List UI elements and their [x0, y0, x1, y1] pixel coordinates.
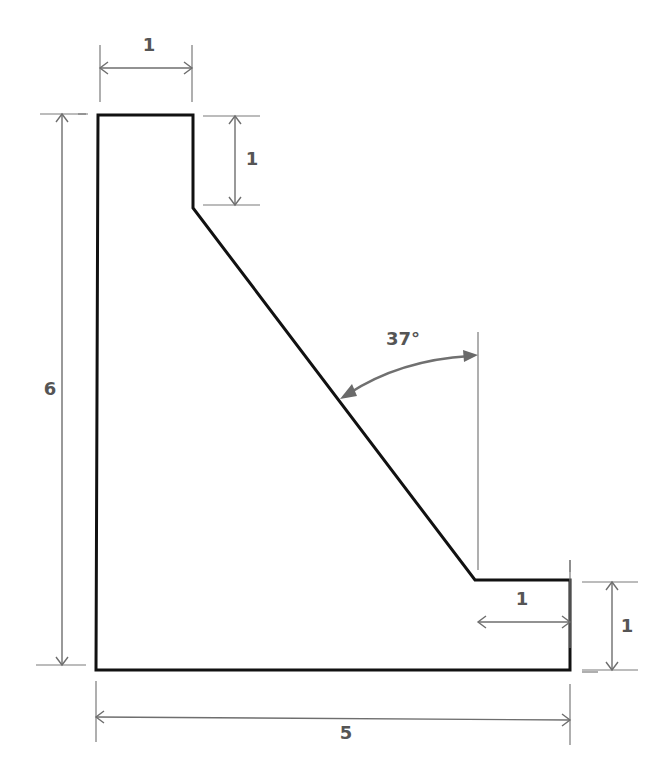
dim-toe-width: 1: [478, 560, 570, 648]
dim-base-width-label: 5: [340, 722, 353, 743]
dim-top-step-label: 1: [246, 148, 259, 169]
angle-label: 37°: [386, 328, 420, 349]
angle-annotation: 37°: [340, 328, 478, 570]
dim-toe-height-label: 1: [621, 615, 634, 636]
dim-total-height-label: 6: [44, 378, 57, 399]
dim-toe-width-label: 1: [516, 588, 529, 609]
dim-top-step: 1: [203, 116, 260, 205]
dim-top-width: 1: [100, 34, 192, 102]
wall-outline: [96, 115, 570, 670]
dim-total-height: 6: [36, 114, 88, 665]
dim-base-width: 5: [96, 681, 570, 745]
dim-top-width-label: 1: [143, 34, 156, 55]
dim-toe-height: 1: [582, 582, 638, 670]
diagram-canvas: 1 1 6 37° 1: [0, 0, 668, 776]
